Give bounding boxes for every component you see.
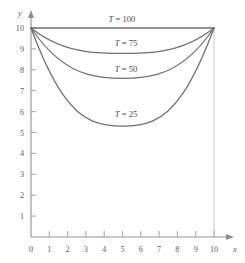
y-axis-label: y [17, 8, 22, 18]
chart-canvas: 10 9 8 7 6 5 4 3 2 1 0 1 2 3 4 5 6 7 8 9… [0, 0, 245, 263]
x-tick-label-3: 3 [84, 245, 88, 254]
x-tick-label-7: 7 [157, 245, 161, 254]
y-tick-label-5: 5 [20, 129, 24, 138]
y-tick-label-8: 8 [20, 66, 24, 75]
x-axis-label: x [232, 244, 237, 254]
x-tick-label-2: 2 [66, 245, 70, 254]
y-tick-label-10: 10 [16, 24, 24, 33]
x-tick-label-4: 4 [102, 245, 106, 254]
y-tick-label-7: 7 [20, 87, 24, 96]
x-tick-label-8: 8 [175, 245, 179, 254]
x-tick-label-1: 1 [47, 245, 51, 254]
x-tick-label-6: 6 [139, 245, 143, 254]
x-axis-ticks [49, 231, 214, 237]
y-tick-label-1: 1 [20, 212, 24, 221]
curve-label-t75: T = 75 [115, 38, 138, 48]
x-tick-label-5: 5 [120, 245, 124, 254]
y-tick-label-6: 6 [20, 108, 24, 117]
curve-label-t50: T = 50 [115, 64, 138, 74]
y-tick-label-9: 9 [20, 45, 24, 54]
y-tick-label-4: 4 [20, 149, 24, 158]
x-tick-label-10: 10 [210, 245, 218, 254]
y-tick-label-3: 3 [20, 170, 24, 179]
curve-label-t25: T = 25 [115, 109, 138, 119]
x-tick-label-0: 0 [29, 245, 33, 254]
x-axis-arrow-icon [226, 234, 234, 240]
y-tick-label-2: 2 [20, 191, 24, 200]
y-axis-arrow-icon [28, 10, 34, 18]
x-tick-label-9: 9 [194, 245, 198, 254]
curve-label-t100: T = 100 [109, 14, 136, 24]
catenary-curves-figure: 10 9 8 7 6 5 4 3 2 1 0 1 2 3 4 5 6 7 8 9… [0, 0, 245, 263]
y-axis-ticks [31, 28, 36, 216]
